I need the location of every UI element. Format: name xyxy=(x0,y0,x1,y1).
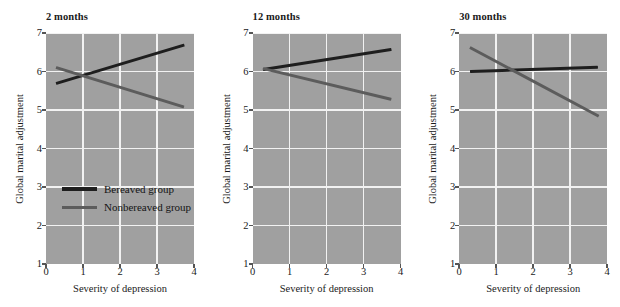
y-tick-label: 6 xyxy=(439,67,455,77)
y-tick-mark xyxy=(455,186,459,188)
y-tick-label: 3 xyxy=(439,182,455,192)
legend-label: Nonbereaved group xyxy=(104,201,191,213)
y-tick-label: 7 xyxy=(26,28,42,38)
y-tick-labels: 1234567 xyxy=(435,33,455,264)
y-tick-label: 3 xyxy=(233,182,249,192)
legend-swatch-icon xyxy=(62,206,97,209)
y-tick-label: 2 xyxy=(26,221,42,231)
y-tick-label: 4 xyxy=(233,144,249,154)
panel-1: 2 monthsGlobal marital adjustmentSeverit… xyxy=(0,0,207,307)
y-tick-mark xyxy=(249,148,253,150)
y-tick-label: 7 xyxy=(439,28,455,38)
y-tick-label: 4 xyxy=(439,144,455,154)
y-tick-mark xyxy=(42,32,46,34)
y-tick-label: 5 xyxy=(26,105,42,115)
x-tick-label: 3 xyxy=(356,266,372,277)
y-tick-mark xyxy=(455,225,459,227)
y-tick-mark xyxy=(249,32,253,34)
x-tick-label: 1 xyxy=(75,266,91,277)
legend-item: Nonbereaved group xyxy=(62,199,192,215)
x-tick-label: 4 xyxy=(393,266,409,277)
y-tick-mark xyxy=(455,32,459,34)
y-tick-label: 6 xyxy=(26,67,42,77)
y-tick-label: 2 xyxy=(233,221,249,231)
y-tick-label: 7 xyxy=(233,28,249,38)
x-tick-label: 4 xyxy=(186,266,202,277)
y-tick-label: 5 xyxy=(439,105,455,115)
legend-item: Bereaved group xyxy=(62,181,192,197)
gridline-vertical xyxy=(156,33,158,264)
x-tick-label: 1 xyxy=(488,266,504,277)
plot-area: Bereaved groupNonbereaved group xyxy=(46,33,194,264)
gridline-vertical xyxy=(326,33,328,264)
x-tick-label: 3 xyxy=(149,266,165,277)
y-tick-mark xyxy=(249,71,253,73)
y-tick-mark xyxy=(42,225,46,227)
legend-swatch-icon xyxy=(62,187,97,191)
y-tick-mark xyxy=(249,109,253,111)
x-tick-label: 0 xyxy=(451,266,467,277)
y-tick-mark xyxy=(455,148,459,150)
gridline-vertical xyxy=(289,33,291,264)
x-tick-label: 2 xyxy=(319,266,335,277)
y-tick-mark xyxy=(249,225,253,227)
y-tick-mark xyxy=(42,148,46,150)
y-tick-labels: 1234567 xyxy=(229,33,249,264)
x-tick-label: 3 xyxy=(562,266,578,277)
y-tick-mark xyxy=(42,109,46,111)
plot-area xyxy=(459,33,607,264)
legend-label: Bereaved group xyxy=(104,183,174,195)
panel-title: 30 months xyxy=(459,11,506,22)
x-tick-labels: 01234 xyxy=(253,266,401,280)
y-tick-label: 4 xyxy=(26,144,42,154)
y-tick-mark xyxy=(455,109,459,111)
x-axis-label: Severity of depression xyxy=(46,283,194,294)
y-tick-label: 3 xyxy=(26,182,42,192)
y-tick-labels: 1234567 xyxy=(22,33,42,264)
panel-title: 2 months xyxy=(46,11,88,22)
y-tick-mark xyxy=(455,71,459,73)
y-tick-label: 6 xyxy=(233,67,249,77)
panel-3: 30 monthsGlobal marital adjustmentSeveri… xyxy=(413,0,620,307)
x-tick-labels: 01234 xyxy=(459,266,607,280)
figure-multipanel-line-chart: 2 monthsGlobal marital adjustmentSeverit… xyxy=(0,0,620,307)
x-tick-labels: 01234 xyxy=(46,266,194,280)
panel-2: 12 monthsGlobal marital adjustmentSeveri… xyxy=(207,0,414,307)
legend: Bereaved groupNonbereaved group xyxy=(62,181,192,217)
x-tick-label: 4 xyxy=(599,266,615,277)
plot-area xyxy=(253,33,401,264)
panel-title: 12 months xyxy=(253,11,300,22)
gridline-vertical xyxy=(82,33,84,264)
x-tick-label: 1 xyxy=(282,266,298,277)
x-tick-label: 2 xyxy=(112,266,128,277)
x-axis-label: Severity of depression xyxy=(459,283,607,294)
y-tick-label: 2 xyxy=(439,221,455,231)
y-tick-label: 5 xyxy=(233,105,249,115)
x-tick-label: 0 xyxy=(245,266,261,277)
gridline-vertical xyxy=(119,33,121,264)
y-tick-mark xyxy=(249,186,253,188)
x-tick-label: 0 xyxy=(38,266,54,277)
gridline-vertical xyxy=(363,33,365,264)
x-axis-label: Severity of depression xyxy=(253,283,401,294)
gridline-vertical xyxy=(495,33,497,264)
x-tick-label: 2 xyxy=(525,266,541,277)
y-tick-mark xyxy=(42,71,46,73)
y-tick-mark xyxy=(42,186,46,188)
